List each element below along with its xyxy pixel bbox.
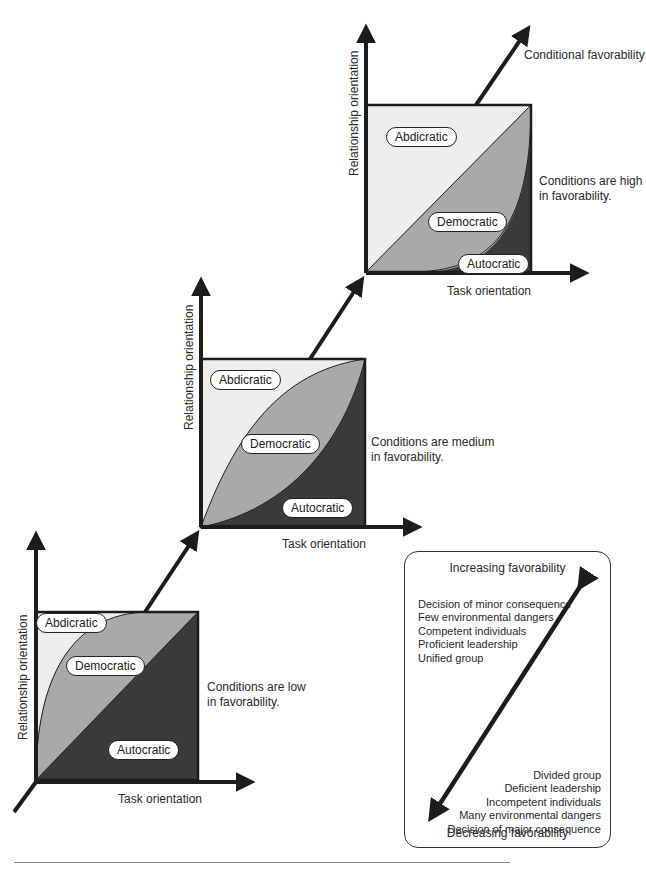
- list-item: Many environmental dangers: [448, 809, 601, 822]
- caption-divider: [14, 862, 510, 863]
- list-item: Unified group: [418, 652, 571, 665]
- x-axis-label-high: Task orientation: [447, 284, 531, 299]
- abdicratic-label-high: Abdicratic: [386, 127, 457, 147]
- list-item: Divided group: [448, 769, 601, 782]
- y-axis-label-low: Relationship orientation: [16, 615, 30, 740]
- condition-text-medium-2: in favorability.: [371, 450, 443, 465]
- list-item: Decision of minor consequence: [418, 598, 571, 611]
- condition-text-medium-1: Conditions are medium: [371, 435, 494, 450]
- democratic-label-high: Democratic: [428, 212, 507, 232]
- list-item: Deficient leadership: [448, 782, 601, 795]
- decreasing-favorability-title: Decreasing favorability: [405, 826, 610, 840]
- panel-medium: [201, 286, 413, 527]
- abdicratic-label-low: Abdicratic: [36, 613, 107, 633]
- conditional-favorability-label: Conditional favorability: [524, 48, 645, 63]
- x-axis-label-medium: Task orientation: [282, 537, 366, 552]
- condition-text-low-2: in favorability.: [207, 695, 279, 710]
- democratic-label-low: Democratic: [66, 656, 145, 676]
- list-item: Competent individuals: [418, 625, 571, 638]
- list-item: Incompetent individuals: [448, 796, 601, 809]
- panel-low: [14, 540, 246, 812]
- democratic-label-medium: Democratic: [241, 434, 320, 454]
- conditional-favorability-arrow: [476, 33, 525, 105]
- increasing-factors-list: Decision of minor consequence Few enviro…: [418, 598, 571, 665]
- y-axis-label-high: Relationship orientation: [347, 51, 361, 176]
- favorability-arrow-1: [145, 538, 194, 612]
- condition-text-high-1: Conditions are high: [539, 174, 642, 189]
- y-axis-label-medium: Relationship orientation: [182, 305, 196, 430]
- x-axis-label-low: Task orientation: [118, 792, 202, 807]
- autocratic-label-low: Autocratic: [108, 740, 179, 760]
- autocratic-label-high: Autocratic: [458, 254, 529, 274]
- increasing-favorability-title: Increasing favorability: [405, 561, 610, 575]
- condition-text-low-1: Conditions are low: [207, 680, 306, 695]
- favorability-legend: Increasing favorability Decision of mino…: [404, 551, 611, 848]
- abdicratic-label-medium: Abdicratic: [210, 370, 281, 390]
- condition-text-high-2: in favorability.: [539, 189, 611, 204]
- favorability-arrow-2: [310, 284, 359, 359]
- list-item: Proficient leadership: [418, 638, 571, 651]
- autocratic-label-medium: Autocratic: [282, 498, 353, 518]
- panel-high: [366, 33, 580, 273]
- list-item: Few environmental dangers: [418, 611, 571, 624]
